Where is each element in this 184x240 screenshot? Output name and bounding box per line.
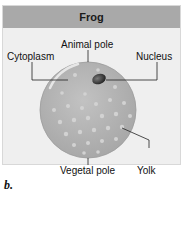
label-cytoplasm: Cytoplasm	[7, 51, 54, 62]
label-yolk: Yolk	[137, 165, 156, 176]
label-animal-pole: Animal pole	[61, 39, 113, 50]
subfigure-label: b.	[4, 178, 13, 193]
label-nucleus: Nucleus	[136, 51, 172, 62]
label-vegetal-pole: Vegetal pole	[60, 165, 115, 176]
